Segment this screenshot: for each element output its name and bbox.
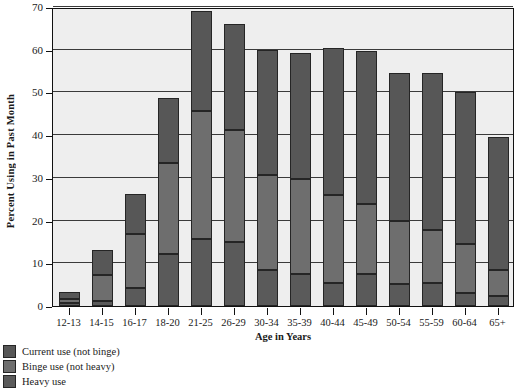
legend-swatch-icon — [3, 375, 16, 388]
x-tick-21-25 — [201, 308, 202, 315]
bar-segment-heavy — [488, 296, 510, 306]
bar-segment-binge — [59, 299, 81, 303]
bar-segment-heavy — [191, 239, 213, 306]
bar-18-20[interactable] — [158, 7, 180, 306]
bar-segment-current — [125, 194, 147, 234]
bar-65+[interactable] — [488, 7, 510, 306]
x-tick-18-20 — [168, 308, 169, 315]
bar-segment-heavy — [92, 301, 114, 306]
x-tick-label: 65+ — [489, 317, 505, 328]
y-tick-label: 10 — [0, 257, 43, 269]
legend-item: Heavy use — [3, 375, 515, 388]
bar-40-44[interactable] — [323, 7, 345, 306]
legend-label: Current use (not binge) — [22, 346, 120, 357]
x-tick-label: 14-15 — [89, 317, 114, 328]
bar-segment-binge — [158, 163, 180, 254]
y-tick-0 — [46, 307, 52, 308]
bar-segment-current — [290, 53, 312, 179]
bar-segment-binge — [92, 275, 114, 301]
legend-swatch-icon — [3, 360, 16, 373]
bar-26-29[interactable] — [224, 7, 246, 306]
bar-segment-heavy — [356, 274, 378, 306]
x-tick-label: 18-20 — [155, 317, 180, 328]
x-tick-55-59 — [432, 308, 433, 315]
bar-segment-heavy — [125, 288, 147, 306]
bar-segment-heavy — [455, 293, 477, 306]
bar-segment-heavy — [323, 283, 345, 306]
bar-21-25[interactable] — [191, 7, 213, 306]
bar-segment-binge — [356, 204, 378, 274]
x-tick-label: 40-44 — [320, 317, 345, 328]
bar-55-59[interactable] — [422, 7, 444, 306]
bar-segment-binge — [488, 270, 510, 296]
bar-45-49[interactable] — [356, 7, 378, 306]
bar-segment-heavy — [59, 303, 81, 306]
x-tick-label: 26-29 — [221, 317, 246, 328]
y-tick-label: 0 — [0, 300, 43, 312]
bar-segment-current — [389, 73, 411, 221]
legend-label: Binge use (not heavy) — [22, 361, 114, 372]
x-tick-35-39 — [300, 308, 301, 315]
bar-segment-heavy — [422, 283, 444, 306]
bar-14-15[interactable] — [92, 7, 114, 306]
y-tick-label: 70 — [0, 1, 43, 13]
bar-segment-heavy — [257, 270, 279, 306]
bar-segment-heavy — [389, 284, 411, 306]
x-tick-26-29 — [234, 308, 235, 315]
bar-segment-current — [59, 292, 81, 299]
bar-segment-binge — [455, 244, 477, 293]
legend-item: Binge use (not heavy) — [3, 360, 515, 373]
bar-30-34[interactable] — [257, 7, 279, 306]
x-tick-60-64 — [465, 308, 466, 315]
y-tick-label: 30 — [0, 172, 43, 184]
bar-segment-binge — [224, 130, 246, 241]
bar-60-64[interactable] — [455, 7, 477, 306]
legend-label: Heavy use — [22, 376, 66, 387]
bar-35-39[interactable] — [290, 7, 312, 306]
y-tick-label: 40 — [0, 129, 43, 141]
bar-16-17[interactable] — [125, 7, 147, 306]
x-tick-label: 45-49 — [353, 317, 378, 328]
y-axis-title: Percent Using in Past Month — [0, 46, 20, 276]
bar-segment-current — [224, 24, 246, 131]
bar-segment-binge — [257, 175, 279, 270]
x-tick-label: 55-59 — [419, 317, 444, 328]
x-tick-14-15 — [102, 308, 103, 315]
bar-segment-heavy — [290, 274, 312, 306]
x-tick-65+ — [498, 308, 499, 315]
bar-segment-current — [191, 11, 213, 111]
bar-12-13[interactable] — [59, 7, 81, 306]
bar-segment-binge — [422, 230, 444, 283]
x-tick-label: 12-13 — [56, 317, 81, 328]
legend-swatch-icon — [3, 345, 16, 358]
x-tick-30-34 — [267, 308, 268, 315]
y-tick-label: 50 — [0, 86, 43, 98]
plot-area — [52, 8, 514, 307]
bar-segment-current — [488, 137, 510, 270]
bar-segment-heavy — [224, 242, 246, 306]
x-tick-label: 50-54 — [386, 317, 411, 328]
legend-item: Current use (not binge) — [3, 345, 515, 358]
bar-segment-heavy — [158, 254, 180, 306]
bar-segment-current — [422, 73, 444, 230]
x-tick-50-54 — [399, 308, 400, 315]
bar-segment-current — [356, 51, 378, 204]
x-tick-label: 35-39 — [287, 317, 312, 328]
y-tick-label: 60 — [0, 44, 43, 56]
bar-segment-binge — [191, 111, 213, 239]
y-tick-label: 20 — [0, 215, 43, 227]
bar-segment-current — [455, 92, 477, 244]
x-tick-label: 30-34 — [254, 317, 279, 328]
x-axis-title: Age in Years — [52, 331, 514, 342]
x-tick-label: 60-64 — [452, 317, 477, 328]
bar-segment-binge — [389, 221, 411, 284]
bar-segment-current — [257, 50, 279, 175]
bar-segment-binge — [125, 234, 147, 288]
bar-segment-current — [92, 250, 114, 275]
bar-50-54[interactable] — [389, 7, 411, 306]
x-tick-16-17 — [135, 308, 136, 315]
bar-segment-current — [158, 98, 180, 162]
bar-segment-binge — [290, 179, 312, 275]
bar-series-layer — [53, 9, 513, 306]
